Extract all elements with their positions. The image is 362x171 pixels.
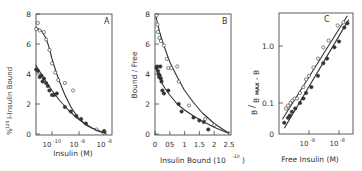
panel-c-ylabel-b2: B [252,98,261,103]
panel-c-y-tick-label: 0.1 [262,99,274,108]
filled-circle-marker [343,26,347,30]
open-circle-marker [57,78,60,81]
panel-c-ylabel-end: - B [252,70,261,80]
open-circle-marker [155,14,158,17]
filled-circle-marker [304,91,308,95]
panel-a-ylabel-sup: 125 [5,120,10,129]
panel-b-x-tick-label: 05 [165,141,174,149]
open-circle-marker [322,46,325,49]
filled-circle-marker [198,119,202,123]
open-circle-marker [286,104,289,107]
open-circle-marker [158,36,161,39]
filled-circle-marker [325,57,329,61]
open-circle-marker [298,91,301,94]
panel-c: 00.11.010-910-8 [262,13,353,148]
open-circle-marker [54,71,57,74]
open-circle-marker [302,86,305,89]
filled-circle-marker [316,74,320,78]
panel-c-y-tick-label: 0 [269,130,274,139]
open-circle-marker [305,78,308,81]
panel-a-x-tick-label: 10 [97,141,106,149]
filled-circle-marker [63,105,67,109]
open-circle-marker [187,104,190,107]
panel-b-xlabel: Insulin Bound (10 -10 ) [160,154,245,165]
filled-circle-marker [84,122,88,126]
panel-c-label: C [324,15,330,24]
filled-circle-marker [48,89,52,93]
filled-circle-marker [46,84,50,88]
open-circle-marker [327,39,330,42]
open-circle-marker [44,38,47,41]
open-circle-marker [159,39,162,42]
filled-circle-marker [346,22,350,26]
panel-c-ylabel: B / B MAX - B [247,70,261,115]
filled-circle-marker [290,110,294,114]
panel-b-y-tick-label: 6 [145,40,150,49]
filled-circle-marker [159,65,163,69]
open-circle-marker [38,29,41,32]
panel-a-x-tick-label: 10 [70,141,79,149]
filled-circle-marker [102,129,106,133]
filled-circle-marker [283,121,287,125]
panel-a-y-tick-label: 8 [26,10,31,19]
panel-c-ylabel-slash: / [247,104,257,108]
panel-c-plot-area [282,16,349,129]
panel-a-fit-curve [36,65,106,133]
filled-circle-marker [160,80,164,84]
filled-circle-marker [333,46,337,50]
panel-c-ylabel-b: B [250,110,259,115]
open-circle-marker [63,81,66,84]
open-circle-marker [165,57,168,60]
panel-c-x-tick-label: 10 [330,140,339,148]
filled-circle-marker [177,102,181,106]
panel-b-y-tick-label: 2 [145,100,150,109]
panel-c-xlabel: Free Insulin (M) [281,155,339,164]
filled-circle-marker [162,92,166,96]
open-circle-marker [307,74,310,77]
panel-a-x-tick-label: 10 [43,141,52,149]
panel-a-xlabel: Insulin (M) [53,149,92,158]
filled-circle-marker [288,114,292,118]
panel-a-x-tick-exp: -9 [80,138,85,144]
filled-circle-marker [55,92,59,96]
panel-a-x-tick-exp: -8 [107,138,112,144]
panel-a: 0246810-1010-910-8 [26,10,112,149]
panel-b-ylabel: Bound / Free [130,51,139,99]
open-circle-marker [36,21,39,24]
panel-b-xlabel-end: ) [242,156,245,165]
filled-circle-marker [202,120,206,124]
filled-circle-marker [322,61,326,65]
panel-a-y-tick-label: 4 [26,70,31,79]
panel-c-fit-line [284,20,348,129]
panel-c-x-tick-label: 10 [300,140,309,148]
open-circle-marker [336,24,339,27]
panel-c-y-tick-label: 1.0 [262,42,274,51]
open-circle-marker [162,44,165,47]
panel-a-frame [36,14,112,135]
panel-a-ylabel-main: I-Insulin Bound [6,67,14,119]
panel-a-fit-curve [36,28,106,134]
filled-circle-marker [310,85,314,89]
filled-circle-marker [302,97,306,101]
open-circle-marker [342,21,345,24]
open-circle-marker [312,66,315,69]
filled-circle-marker [337,40,341,44]
filled-circle-marker [79,117,83,121]
filled-circle-marker [192,116,196,120]
filled-circle-marker [75,114,79,118]
panel-a-y-tick-label: 6 [26,40,31,49]
filled-circle-marker [36,69,40,73]
open-circle-marker [296,97,299,100]
open-circle-marker [71,89,74,92]
filled-circle-marker [298,101,302,105]
panel-c-x-tick-exp: -9 [310,137,315,143]
open-circle-marker [42,30,45,33]
panel-b-fit-curve [156,65,229,133]
panel-b-x-tick-label: 1 [182,141,186,149]
open-circle-marker [170,66,173,69]
open-circle-marker [156,23,159,26]
panel-a-y-tick-label: 2 [26,100,31,109]
open-circle-marker [316,57,319,60]
panel-b-xlabel-exp: -10 [232,154,240,159]
filled-circle-marker [180,110,184,114]
